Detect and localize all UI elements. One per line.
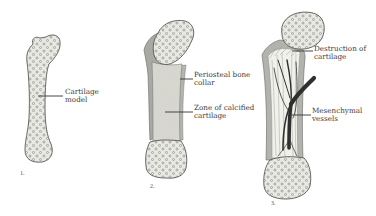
label-periosteal-bone-collar: Periosteal bone collar bbox=[194, 71, 250, 88]
ossification-diagram: Cartilage model Periosteal bone collar Z… bbox=[0, 0, 376, 216]
label-cartilage-model: Cartilage model bbox=[65, 88, 99, 105]
label-destruction-of-cartilage: Destruction of cartilage bbox=[314, 45, 366, 62]
stage-number-3: 3. bbox=[271, 200, 276, 206]
label-zone-calcified-cartilage: Zone of calcified cartilage bbox=[194, 104, 254, 121]
stage-number-2: 2. bbox=[150, 183, 155, 189]
stage-2-bone-collar bbox=[144, 20, 194, 178]
stage-number-1: 1. bbox=[20, 170, 25, 176]
stage-1-cartilage-model bbox=[25, 35, 63, 162]
label-mesenchymal-vessels: Mesenchymal vessels bbox=[312, 107, 362, 124]
